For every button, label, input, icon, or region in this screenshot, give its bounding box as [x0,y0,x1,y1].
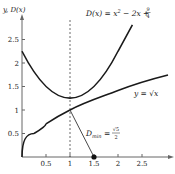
svg-text:Dmin =: Dmin = [85,129,110,139]
svg-text:2: 2 [114,134,117,140]
d-curve-label: D(x) = x2 − 2x + 9 4 [85,6,151,19]
svg-text:√5: √5 [113,126,119,132]
sqrt-curve-label: y = √x [133,89,159,98]
x-tick-label: 1 [68,160,72,168]
svg-text:9: 9 [146,6,149,12]
x-tick-label: 2.5 [136,160,147,168]
y-tick-label: 1 [15,107,19,115]
point-marker [91,154,96,159]
y-axis-title: y, D(x) [2,6,26,14]
dmin-label: Dmin = √5 2 [85,126,120,140]
y-tick-label: 0.5 [8,130,19,138]
y-tick-label: 2 [15,60,19,68]
d-curve [22,25,132,98]
x-tick-label: 2 [116,160,120,168]
svg-text:4: 4 [146,13,149,19]
x-tick-label: 0.5 [40,160,51,168]
sqrt-curve [22,75,168,157]
chart: 0.5 1 1.5 2 2.5 0.5 1 1.5 2 2.5 y, D(x) … [0,0,175,174]
svg-text:D(x) = x2 − 2x +: D(x) = x2 − 2x + [85,8,149,18]
y-tick-label: 2.5 [8,36,19,44]
x-axis-arrow-icon [168,155,174,159]
y-tick-label: 1.5 [8,83,19,91]
y-axis-arrow-icon [20,14,24,20]
x-tick-label: 1.5 [88,160,99,168]
